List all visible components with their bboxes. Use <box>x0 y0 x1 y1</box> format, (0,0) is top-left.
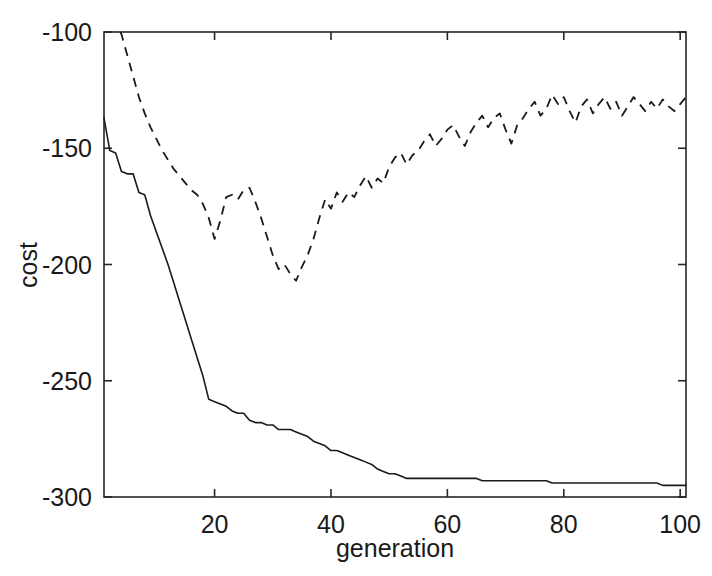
chart-figure: 20406080100 -300-250-200-150-100 generat… <box>0 0 712 576</box>
y-axis-ticks-left <box>104 32 112 497</box>
y-tick-label: -250 <box>42 367 92 395</box>
y-tick-label: -150 <box>42 134 92 162</box>
series-average-cost <box>120 32 686 281</box>
cost-vs-generation-chart: 20406080100 -300-250-200-150-100 generat… <box>0 0 712 576</box>
x-tick-label: 20 <box>201 510 229 538</box>
x-axis-label: generation <box>336 534 454 562</box>
plot-frame <box>104 32 686 497</box>
y-tick-label: -300 <box>42 483 92 511</box>
x-axis-ticks-top <box>215 32 681 40</box>
y-axis-tick-labels: -300-250-200-150-100 <box>42 18 92 511</box>
y-tick-label: -100 <box>42 18 92 46</box>
series-best-cost <box>104 118 686 485</box>
x-tick-label: 100 <box>659 510 701 538</box>
x-axis-ticks-bottom <box>215 489 681 497</box>
y-tick-label: -200 <box>42 251 92 279</box>
y-axis-label: cost <box>14 242 42 288</box>
x-tick-label: 80 <box>550 510 578 538</box>
